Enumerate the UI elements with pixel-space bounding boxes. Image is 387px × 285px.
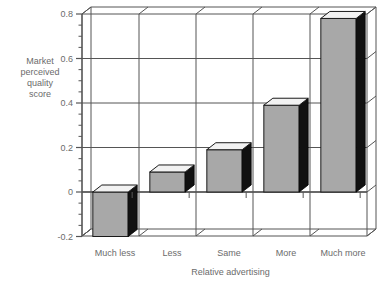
y-axis-title-line: quality xyxy=(27,78,54,88)
bar-much-less[interactable] xyxy=(93,185,137,237)
floor-depth-5 xyxy=(367,229,376,236)
y-axis-title-line: perceived xyxy=(20,67,59,77)
floor-depth-4 xyxy=(310,229,319,236)
x-category-label: Same xyxy=(217,248,241,258)
gridline-x-depth-4 xyxy=(310,7,319,14)
x-axis-ticks xyxy=(132,192,360,198)
y-tick-label: 0.4 xyxy=(60,98,73,108)
gridline-x-depth-5 xyxy=(367,7,376,14)
x-category-label: Much less xyxy=(95,248,136,258)
x-category-label: Much more xyxy=(320,248,365,258)
bar-front-face[interactable] xyxy=(93,192,128,237)
bars-group xyxy=(93,11,365,236)
chart-container: 0.80.60.40.20-0.2Much lessLessSameMoreMu… xyxy=(0,0,387,285)
gridline-x-depth-3 xyxy=(253,7,262,14)
bar-side-face xyxy=(128,185,137,237)
bar-chart: 0.80.60.40.20-0.2Much lessLessSameMoreMu… xyxy=(0,0,387,285)
bar-front-face[interactable] xyxy=(150,172,185,192)
bar-more[interactable] xyxy=(264,98,308,192)
gridline-x-depth-1 xyxy=(139,7,148,14)
x-axis-title: Relative advertising xyxy=(191,267,270,277)
floor-depth-3 xyxy=(253,229,262,236)
floor-depth-1 xyxy=(139,229,148,236)
bar-front-face[interactable] xyxy=(264,105,299,192)
floor-depth-2 xyxy=(196,229,205,236)
x-category-label: More xyxy=(276,248,297,258)
bar-same[interactable] xyxy=(207,143,251,192)
gridline-x-depth-2 xyxy=(196,7,205,14)
bar-front-face[interactable] xyxy=(321,18,356,192)
y-axis-title-line: score xyxy=(29,89,51,99)
bar-side-face xyxy=(356,11,365,192)
x-category-label: Less xyxy=(162,248,182,258)
gridline-y-depth xyxy=(367,52,376,59)
bar-less[interactable] xyxy=(150,165,194,192)
bar-side-face xyxy=(299,98,308,192)
y-axis-title-line: Market xyxy=(26,56,54,66)
y-tick-label: -0.2 xyxy=(57,232,73,242)
y-tick-label: 0.6 xyxy=(60,54,73,64)
gridline-x-depth-0 xyxy=(82,7,91,14)
y-tick-label: 0 xyxy=(68,187,73,197)
gridline-y-depth xyxy=(367,141,376,148)
gridline-y-depth xyxy=(367,185,376,192)
gridline-y-depth xyxy=(367,96,376,103)
y-tick-label: 0.2 xyxy=(60,143,73,153)
y-tick-label: 0.8 xyxy=(60,9,73,19)
y-axis-ticks: 0.80.60.40.20-0.2 xyxy=(57,9,82,242)
bar-much-more[interactable] xyxy=(321,11,365,192)
bar-front-face[interactable] xyxy=(207,150,242,192)
bar-side-face xyxy=(242,143,251,192)
y-axis-depth-bottom xyxy=(82,229,91,236)
